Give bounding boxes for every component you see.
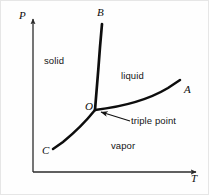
fusion-curve-OB — [95, 24, 102, 110]
phase-diagram-canvas — [0, 0, 209, 195]
point-label-c: C — [42, 144, 49, 156]
y-axis-label: P — [19, 9, 26, 21]
vaporization-curve-OA — [95, 80, 180, 110]
triple-point-annotation-label: triple point — [131, 115, 176, 126]
point-label-b: B — [97, 6, 104, 18]
figure-border — [1, 1, 209, 195]
triple-point-leader-arrow — [101, 112, 130, 121]
point-label-a: A — [184, 83, 191, 95]
phase-diagram-figure: P T solid liquid vapor A B C O triple po… — [0, 0, 209, 195]
region-label-solid: solid — [44, 55, 64, 66]
point-label-o: O — [85, 100, 93, 112]
region-label-liquid: liquid — [121, 70, 144, 81]
region-label-vapor: vapor — [111, 140, 135, 151]
x-axis-label: T — [191, 172, 197, 184]
sublimation-curve-OC — [53, 110, 95, 149]
